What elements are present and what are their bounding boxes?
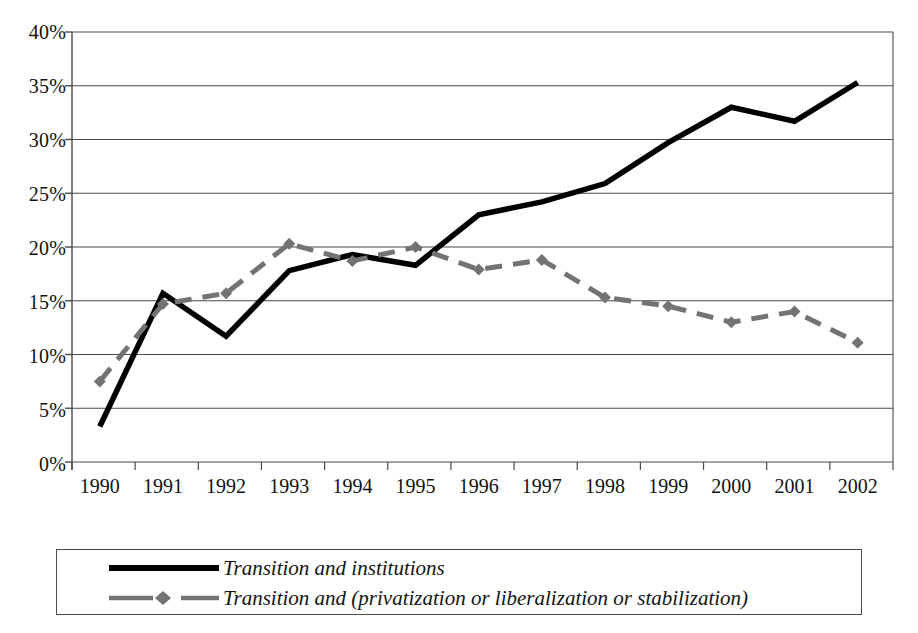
x-tick-label: 1999: [633, 474, 703, 498]
x-tick-label: 2002: [823, 474, 893, 498]
plot-canvas: [0, 0, 918, 520]
x-tick-label: 1991: [128, 474, 198, 498]
x-tick-label: 1995: [381, 474, 451, 498]
x-tick-label: 1990: [65, 474, 135, 498]
x-tick-label: 1993: [254, 474, 324, 498]
x-tick-label: 2001: [759, 474, 829, 498]
legend-label: Transition and (privatization or liberal…: [223, 586, 748, 610]
legend-key-dashed-line-diamond: [105, 587, 223, 609]
legend-item-series-1: Transition and institutions: [57, 553, 861, 583]
x-tick-label: 2000: [696, 474, 766, 498]
x-tick-label: 1996: [444, 474, 514, 498]
x-tick-label: 1998: [570, 474, 640, 498]
chart-legend: Transition and institutions Transition a…: [56, 549, 862, 615]
legend-item-series-2: Transition and (privatization or liberal…: [57, 583, 861, 613]
x-tick-label: 1997: [507, 474, 577, 498]
chart-figure: 40% 35% 30% 25% 20% 15% 10% 5% 0% 199019…: [0, 0, 918, 633]
x-axis-tick-labels: 1990199119921993199419951996199719981999…: [0, 474, 918, 508]
legend-label: Transition and institutions: [223, 556, 445, 580]
x-tick-label: 1994: [317, 474, 387, 498]
plot-area: 40% 35% 30% 25% 20% 15% 10% 5% 0% 199019…: [0, 0, 918, 520]
legend-key-solid-line: [105, 557, 223, 579]
x-tick-label: 1992: [191, 474, 261, 498]
